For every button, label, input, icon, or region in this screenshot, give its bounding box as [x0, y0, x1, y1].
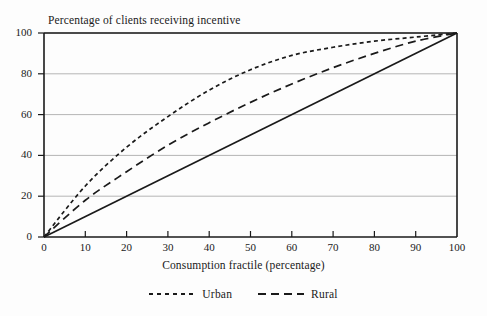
- legend-swatch-rural-icon: [258, 293, 304, 295]
- y-tick-40: 40: [4, 148, 32, 160]
- x-axis-ticks: [85, 231, 415, 237]
- x-tick-40: 40: [194, 241, 224, 253]
- x-tick-20: 20: [112, 241, 142, 253]
- y-tick-60: 60: [4, 108, 32, 120]
- legend-label-urban: Urban: [202, 288, 232, 300]
- gridlines: [44, 33, 457, 196]
- data-series-group: [44, 33, 457, 237]
- x-tick-0: 0: [29, 241, 59, 253]
- chart-figure: Percentage of clients receiving incentiv…: [0, 0, 487, 316]
- x-tick-100: 100: [442, 241, 472, 253]
- legend-item-urban: Urban: [149, 288, 232, 300]
- y-tick-100: 100: [4, 26, 32, 38]
- y-axis-ticks: [38, 33, 44, 237]
- x-tick-50: 50: [236, 241, 266, 253]
- legend-label-rural: Rural: [311, 288, 338, 300]
- y-tick-0: 0: [4, 230, 32, 242]
- x-tick-80: 80: [359, 241, 389, 253]
- x-axis-label: Consumption fractile (percentage): [0, 259, 487, 271]
- x-tick-10: 10: [70, 241, 100, 253]
- y-tick-20: 20: [4, 189, 32, 201]
- x-tick-70: 70: [318, 241, 348, 253]
- legend-item-rural: Rural: [258, 288, 338, 300]
- series-line-of-equality: [44, 33, 457, 237]
- y-tick-80: 80: [4, 67, 32, 79]
- x-tick-30: 30: [153, 241, 183, 253]
- x-tick-90: 90: [401, 241, 431, 253]
- chart-legend: Urban Rural: [0, 288, 487, 300]
- x-tick-60: 60: [277, 241, 307, 253]
- legend-swatch-urban-icon: [149, 293, 195, 295]
